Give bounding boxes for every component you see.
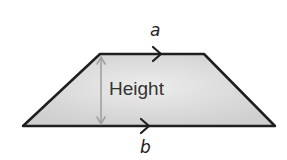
height-label: Height bbox=[109, 78, 164, 100]
side-b-label: b bbox=[140, 137, 151, 157]
side-a-label: a bbox=[150, 20, 160, 40]
